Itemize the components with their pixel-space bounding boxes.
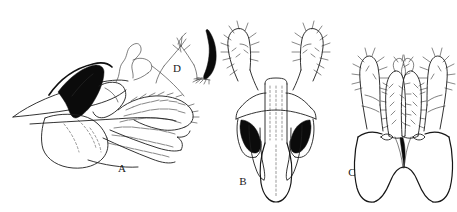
panel-d-label: D xyxy=(173,62,181,74)
panel-c-label: C xyxy=(348,166,355,178)
illustration-plate: A xyxy=(0,0,457,212)
panel-a-label: A xyxy=(118,162,126,174)
plate-canvas: A xyxy=(0,0,457,212)
panel-b-label: B xyxy=(239,175,246,187)
